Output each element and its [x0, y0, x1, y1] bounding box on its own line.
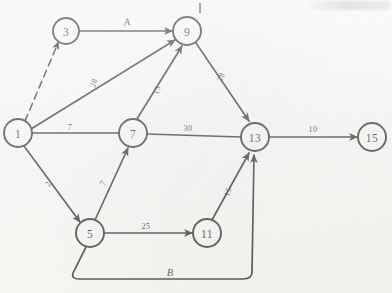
network-graph: A 28 13 7 28 30 10 2 7 25 15 B 3 9 [0, 0, 392, 293]
edge-7-to-9 [137, 46, 182, 119]
edge-label-5-11: 25 [142, 222, 151, 231]
node-11[interactable]: 11 [193, 219, 221, 247]
edge-label-1-5: 2 [43, 180, 53, 188]
edges-layer [24, 31, 357, 279]
nodes-layer: 3 9 1 7 13 15 [4, 17, 386, 247]
edge-1-to-3 [25, 42, 59, 121]
node-13[interactable]: 13 [241, 123, 269, 151]
edge-11-to-13 [212, 153, 249, 220]
node-1-label: 1 [15, 128, 21, 140]
edge-label-7-9: 13 [152, 85, 163, 96]
diagram-canvas: A 28 13 7 28 30 10 2 7 25 15 B 3 9 [0, 0, 392, 293]
node-5[interactable]: 5 [76, 219, 104, 247]
node-1[interactable]: 1 [4, 119, 32, 147]
edge-label-1-7: 7 [68, 123, 72, 132]
node-11-label: 11 [201, 228, 213, 240]
edge-label-5-13: B [167, 267, 174, 278]
node-3-label: 3 [63, 26, 69, 38]
node-7[interactable]: 7 [119, 119, 147, 147]
edge-label-7-13: 30 [184, 124, 193, 133]
node-5-label: 5 [87, 228, 93, 240]
node-15[interactable]: 15 [358, 123, 386, 151]
node-9[interactable]: 9 [173, 17, 201, 45]
scan-smudge [304, 1, 390, 10]
node-15-label: 15 [366, 132, 378, 144]
node-13-label: 13 [249, 132, 261, 144]
edge-7-to-13 [147, 134, 241, 137]
edge-label-11-13: 15 [222, 186, 233, 197]
edge-label-3-9: A [122, 16, 131, 28]
edge-label-9-13: 28 [215, 71, 227, 83]
edge-label-13-15: 10 [309, 125, 318, 134]
edge-5-to-13 [73, 155, 254, 279]
node-3[interactable]: 3 [53, 18, 79, 44]
node-7-label: 7 [130, 128, 136, 140]
edge-label-5-7: 7 [98, 179, 108, 187]
node-9-label: 9 [184, 26, 190, 38]
